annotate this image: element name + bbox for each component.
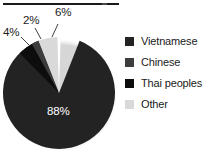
pie-label-vietnamese: 88% <box>47 106 69 118</box>
legend-swatch-other <box>125 100 134 109</box>
legend-label-other: Other <box>141 99 168 110</box>
pie-chart-figure: 6% 2% 4% 88% Vietnamese Chinese Thai peo… <box>0 0 207 152</box>
legend-swatch-thai-peoples <box>125 79 134 88</box>
pie-label-chinese: 2% <box>23 15 39 27</box>
leader-line-chinese <box>35 28 41 39</box>
legend-item-other: Other <box>125 94 207 115</box>
legend-label-vietnamese: Vietnamese <box>141 36 197 47</box>
legend-label-thai-peoples: Thai peoples <box>141 78 202 89</box>
leader-line-other <box>52 24 58 37</box>
legend-item-thai-peoples: Thai peoples <box>125 73 207 94</box>
chart-legend: Vietnamese Chinese Thai peoples Other <box>125 31 207 115</box>
legend-label-chinese: Chinese <box>141 57 180 68</box>
pie-label-other: 6% <box>55 7 71 19</box>
leader-line-thai-peoples <box>21 37 30 46</box>
legend-swatch-chinese <box>125 58 134 67</box>
legend-swatch-vietnamese <box>125 37 134 46</box>
pie-label-thai-peoples: 4% <box>3 27 19 39</box>
legend-item-vietnamese: Vietnamese <box>125 31 207 52</box>
legend-item-chinese: Chinese <box>125 52 207 73</box>
